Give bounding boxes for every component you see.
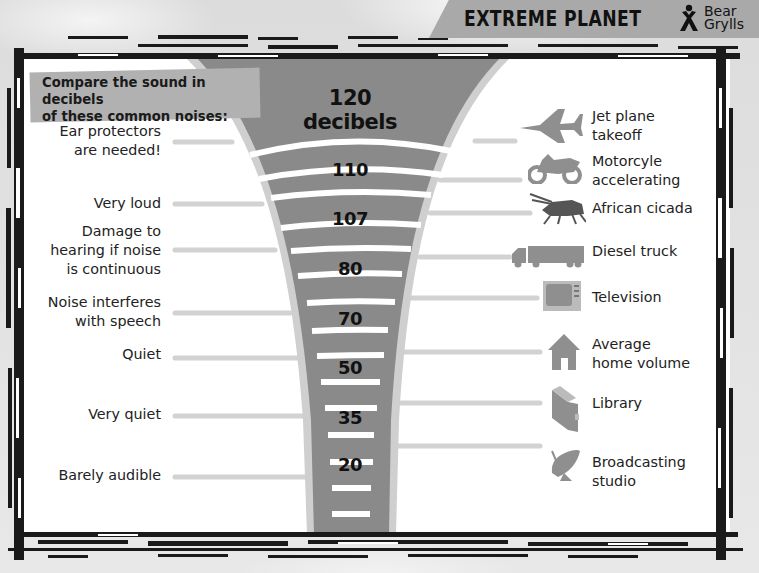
label-line: Broadcasting (592, 453, 686, 472)
left-label-very-loud: Very loud (94, 194, 161, 213)
label-line: accelerating (592, 171, 680, 190)
label-line: Library (592, 394, 642, 413)
book-icon (550, 386, 580, 434)
label-line: Motorcyle (592, 152, 680, 171)
left-label-very-quiet: Very quiet (88, 405, 161, 424)
right-label-television: Television (592, 288, 662, 307)
label-line: Quiet (122, 345, 161, 364)
label-line: with speech (48, 312, 161, 331)
right-label-african-cicada: African cicada (592, 199, 693, 218)
right-label-diesel-truck: Diesel truck (592, 242, 677, 261)
label-line: takeoff (592, 126, 655, 145)
label-line: Diesel truck (592, 242, 677, 261)
label-line: African cicada (592, 199, 693, 218)
intro-line-1: Compare the sound in decibels (42, 74, 267, 108)
label-line: Very loud (94, 194, 161, 213)
house-icon (548, 334, 580, 370)
left-label-quiet: Quiet (122, 345, 161, 364)
label-line: Noise interferes (48, 293, 161, 312)
truck-icon (510, 244, 584, 268)
left-label-damage-to-hearing: Damage to hearing if noise is continuous (50, 222, 161, 279)
decibel-value-50: 50 (300, 357, 400, 378)
label-line: Television (592, 288, 662, 307)
frame-top-border (18, 34, 740, 62)
decibel-unit: decibels (300, 110, 400, 134)
label-line: Very quiet (88, 405, 161, 424)
motorcycle-icon (528, 150, 582, 184)
right-label-motorcycle: Motorcyle accelerating (592, 152, 680, 190)
jet-plane-icon (518, 106, 584, 146)
label-line: studio (592, 472, 686, 491)
label-line: are needed! (59, 141, 161, 160)
left-label-barely-audible: Barely audible (58, 466, 161, 485)
frame-bottom-border (8, 532, 743, 562)
right-label-broadcasting-studio: Broadcasting studio (592, 453, 686, 491)
label-line: Average (592, 335, 690, 354)
label-line: is continuous (50, 260, 161, 279)
right-label-home-volume: Average home volume (592, 335, 690, 373)
label-line: Jet plane (592, 107, 655, 126)
decibel-value-80: 80 (300, 258, 400, 279)
label-line: hearing if noise (50, 241, 161, 260)
label-line: Barely audible (58, 466, 161, 485)
satellite-dish-icon (548, 447, 586, 483)
decibel-value-70: 70 (300, 308, 400, 329)
decibel-value-120: 120 (300, 86, 400, 110)
decibel-value-107: 107 (300, 208, 400, 229)
label-line: Ear protectors (59, 122, 161, 141)
left-label-ear-protectors: Ear protectors are needed! (59, 122, 161, 160)
right-label-jet-plane: Jet plane takeoff (592, 107, 655, 145)
decibel-value-35: 35 (300, 407, 400, 428)
label-line: Damage to (50, 222, 161, 241)
left-label-noise-interferes: Noise interferes with speech (48, 293, 161, 331)
television-icon (542, 280, 582, 312)
frame-right-border (712, 48, 736, 560)
intro-text: Compare the sound in decibels of these c… (42, 74, 267, 125)
decibel-value-110: 110 (300, 159, 400, 180)
frame-left-border (4, 48, 28, 560)
label-line: home volume (592, 354, 690, 373)
decibel-value-20: 20 (300, 454, 400, 475)
cicada-icon (528, 192, 586, 226)
right-label-library: Library (592, 394, 642, 413)
